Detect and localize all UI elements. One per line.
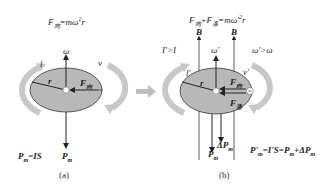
omega-increase-label: ω'>ω [252, 46, 273, 55]
current-prime-label: l' [186, 69, 190, 78]
omega-label: ω [63, 47, 69, 56]
force-label: F向 [80, 79, 92, 88]
centripetal-force-label: F向 [230, 78, 242, 87]
panel-a [22, 57, 125, 146]
b-field-label-left: B [196, 28, 202, 37]
radius-label: r [200, 79, 204, 88]
magnetic-moment-label: Pm [208, 150, 218, 159]
caption-b: (b) [219, 170, 230, 180]
b-field-label-right: B [231, 28, 237, 37]
magnetic-moment-equation: Pm=IS [18, 152, 42, 161]
diagram-canvas [0, 0, 331, 189]
delta-moment-label: ΔPm [217, 141, 233, 150]
magnetic-moment-label: Pm [62, 152, 72, 161]
lorentz-force-label: F洛 [230, 99, 242, 108]
caption-a: (a) [59, 170, 69, 180]
omega-prime-label: ω' [211, 46, 219, 55]
current-label: l [40, 60, 43, 69]
transition-arrow-icon [136, 85, 156, 98]
current-increase-label: I'>I [162, 46, 176, 55]
velocity-prime-label: v' [243, 68, 249, 77]
velocity-label: v [98, 59, 102, 68]
rotation-arc-right-icon [108, 65, 125, 108]
new-magnetic-moment-equation: P'm=I'S=Pm+ΔPm [250, 146, 315, 155]
radius-label: r [48, 77, 52, 86]
total-force-formula: F向+F洛=mω'2r [189, 16, 245, 25]
rotation-arc-right-icon [252, 65, 270, 108]
centripetal-force-formula: F向=mω2r [48, 18, 85, 27]
